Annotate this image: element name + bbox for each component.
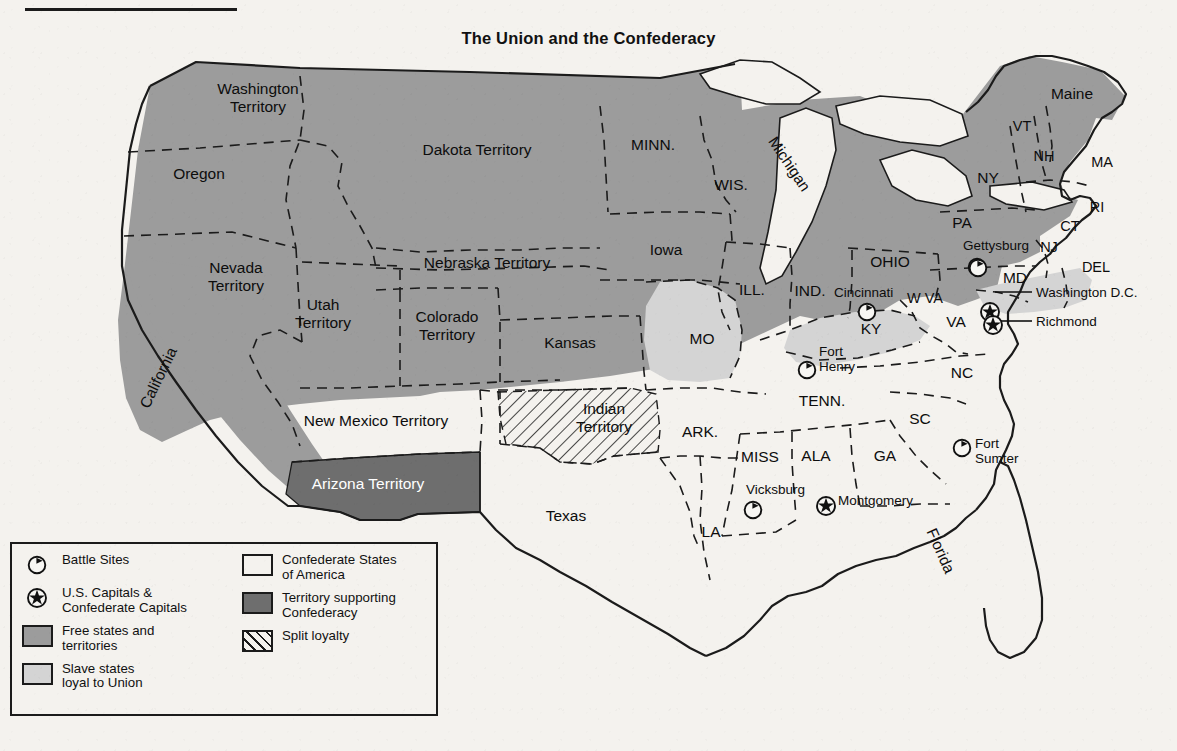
battle-site-icon bbox=[20, 552, 54, 578]
battle-site-label: Sumter bbox=[975, 451, 1019, 466]
svg-text:Territory: Territory bbox=[295, 314, 351, 331]
swatch-dark-box bbox=[242, 592, 273, 614]
svg-text:NY: NY bbox=[977, 169, 999, 186]
legend-item-battle-sites: Battle Sites bbox=[20, 552, 230, 578]
svg-text:NJ: NJ bbox=[1040, 239, 1058, 255]
battle-site-icon bbox=[859, 304, 876, 321]
svg-text:Territory: Territory bbox=[208, 277, 264, 294]
svg-text:SC: SC bbox=[909, 410, 931, 427]
svg-text:Oregon: Oregon bbox=[173, 165, 225, 182]
battle-site-vicksburg[interactable]: Vicksburg bbox=[745, 482, 805, 518]
svg-text:Indian: Indian bbox=[583, 400, 625, 417]
legend-item-slave-states-loyal-to-union: Slave states loyal to Union bbox=[20, 661, 230, 692]
svg-text:NH: NH bbox=[1034, 148, 1055, 164]
battle-site-label: Fort bbox=[975, 436, 999, 451]
region-label-florida: Florida bbox=[924, 526, 959, 577]
region-label-la: LA bbox=[702, 523, 722, 540]
svg-text:Iowa: Iowa bbox=[650, 241, 683, 258]
swatch-split-box bbox=[242, 630, 273, 652]
region-label-nj: NJ bbox=[1040, 239, 1058, 255]
region-label-ct: CT bbox=[1060, 218, 1079, 234]
svg-text:Arizona Territory: Arizona Territory bbox=[312, 475, 425, 492]
svg-text:W VA: W VA bbox=[907, 290, 943, 306]
svg-text:Nevada: Nevada bbox=[209, 259, 263, 276]
landmass-fills bbox=[118, 56, 1125, 520]
region-label-ga: GA bbox=[874, 447, 897, 464]
svg-text:PA: PA bbox=[952, 214, 972, 231]
swatch-split bbox=[240, 628, 274, 654]
svg-text:Territory: Territory bbox=[419, 326, 475, 343]
legend-left-column: Battle SitesU.S. Capitals & Confederate … bbox=[20, 552, 230, 698]
region-label-pa: PA bbox=[952, 214, 972, 231]
svg-text:New Mexico Territory: New Mexico Territory bbox=[304, 412, 449, 429]
battle-site-label: Fort bbox=[819, 344, 843, 359]
svg-text:Territory: Territory bbox=[230, 98, 286, 115]
swatch-dark bbox=[240, 590, 274, 616]
svg-text:GA: GA bbox=[874, 447, 897, 464]
region-label-ohio: OHIO bbox=[870, 253, 910, 270]
battle-site-icon bbox=[970, 260, 987, 277]
swatch-free-box bbox=[22, 625, 53, 647]
svg-text:ALA: ALA bbox=[801, 447, 831, 464]
capital-star-icon bbox=[20, 585, 54, 611]
region-label-arizona-territory: Arizona Territory bbox=[312, 475, 425, 492]
region-label-nevada-territory: NevadaTerritory bbox=[208, 259, 264, 294]
battle-site-unnamed-maryland-site[interactable] bbox=[970, 260, 987, 277]
map-page: The Union and the Confederacy bbox=[0, 0, 1177, 751]
legend-item-label: Territory supporting Confederacy bbox=[282, 590, 396, 621]
battle-site-label: Vicksburg bbox=[746, 482, 805, 497]
svg-text:NC: NC bbox=[951, 364, 973, 381]
svg-text:DEL: DEL bbox=[1082, 259, 1110, 275]
legend-right-column: Confederate States of AmericaTerritory s… bbox=[240, 552, 435, 661]
svg-text:Florida: Florida bbox=[924, 526, 959, 577]
battle-site-label: Cincinnati bbox=[834, 285, 893, 300]
region-label-w-va: W VA bbox=[907, 290, 943, 306]
svg-text:Utah: Utah bbox=[307, 296, 340, 313]
legend-item-split-loyalty: Split loyalty bbox=[240, 628, 435, 654]
region-label-sc: SC bbox=[909, 410, 931, 427]
legend-item-label: Slave states loyal to Union bbox=[62, 661, 143, 692]
region-label-iowa: Iowa bbox=[650, 241, 683, 258]
capital-montgomery[interactable]: Montgomery bbox=[817, 493, 913, 515]
svg-text:MO: MO bbox=[690, 330, 715, 347]
swatch-confederate bbox=[240, 552, 274, 578]
legend-item-confederate-states-of-america: Confederate States of America bbox=[240, 552, 435, 583]
region-label-oregon: Oregon bbox=[173, 165, 225, 182]
capital-label: Montgomery bbox=[838, 493, 913, 508]
region-label-vt: VT bbox=[1013, 118, 1032, 134]
svg-text:TENN.: TENN. bbox=[799, 392, 846, 409]
region-label-mo: MO bbox=[690, 330, 715, 347]
legend-item-territory-supporting-confederacy: Territory supporting Confederacy bbox=[240, 590, 435, 621]
battle-site-label: Henry bbox=[819, 359, 855, 374]
legend-item-free-states-and-territories: Free states and territories bbox=[20, 623, 230, 654]
region-label-dakota-territory: Dakota Territory bbox=[422, 141, 531, 158]
swatch-slave-box bbox=[22, 663, 53, 685]
map-legend: Battle SitesU.S. Capitals & Confederate … bbox=[10, 542, 438, 716]
capital-label: Washington D.C. bbox=[1036, 285, 1138, 300]
svg-text:CT: CT bbox=[1060, 218, 1079, 234]
region-label-va: VA bbox=[946, 313, 966, 330]
svg-text:Colorado: Colorado bbox=[416, 308, 479, 325]
legend-item-label: Free states and territories bbox=[62, 623, 154, 654]
region-label-indian-territory: IndianTerritory bbox=[576, 400, 632, 435]
capital-label: Richmond bbox=[1036, 314, 1097, 329]
legend-item-label: Split loyalty bbox=[282, 628, 349, 644]
svg-text:Maine: Maine bbox=[1051, 85, 1093, 102]
svg-text:Territory: Territory bbox=[576, 418, 632, 435]
region-label-wis: WIS. bbox=[714, 176, 748, 193]
region-label-kansas: Kansas bbox=[544, 334, 596, 351]
svg-text:OHIO: OHIO bbox=[870, 253, 910, 270]
legend-item-label: Confederate States of America bbox=[282, 552, 397, 583]
swatch-slave bbox=[20, 661, 54, 687]
region-label-texas: Texas bbox=[546, 507, 587, 524]
capital-richmond[interactable]: Richmond bbox=[984, 314, 1097, 334]
region-label-miss: MISS bbox=[741, 448, 779, 465]
region-label-del: DEL bbox=[1082, 259, 1110, 275]
region-label-colorado-territory: ColoradoTerritory bbox=[416, 308, 479, 343]
svg-text:ARK.: ARK. bbox=[682, 423, 718, 440]
legend-item-label: U.S. Capitals & Confederate Capitals bbox=[62, 585, 187, 616]
svg-text:MINN.: MINN. bbox=[631, 136, 675, 153]
swatch-free bbox=[20, 623, 54, 649]
region-label-md: MD bbox=[1003, 269, 1027, 286]
battle-site-icon bbox=[745, 502, 762, 519]
